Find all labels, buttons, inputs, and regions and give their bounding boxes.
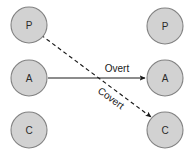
edge-group bbox=[41, 35, 151, 117]
node-right-p[interactable]: P bbox=[147, 8, 183, 44]
node-left-a[interactable]: A bbox=[11, 60, 47, 96]
node-left-a-label: A bbox=[26, 73, 33, 84]
node-right-c[interactable]: C bbox=[147, 112, 183, 148]
covert-edge-label: Covert bbox=[96, 85, 126, 111]
edge-label-group: Overt Covert bbox=[96, 63, 130, 111]
sender-column: P A C bbox=[11, 7, 47, 148]
diagram-canvas: P A C P A C bbox=[0, 0, 192, 160]
node-right-a[interactable]: A bbox=[147, 60, 183, 96]
covert-edge-line bbox=[41, 35, 151, 117]
node-right-a-label: A bbox=[162, 73, 169, 84]
node-left-p-label: P bbox=[26, 20, 33, 31]
node-right-c-label: C bbox=[161, 125, 168, 136]
diagram-svg: P A C P A C bbox=[0, 0, 192, 160]
node-left-p[interactable]: P bbox=[11, 7, 47, 43]
receiver-column: P A C bbox=[147, 8, 183, 148]
node-right-p-label: P bbox=[162, 21, 169, 32]
node-left-c[interactable]: C bbox=[11, 112, 47, 148]
node-left-c-label: C bbox=[25, 125, 32, 136]
overt-edge-label: Overt bbox=[105, 63, 130, 74]
